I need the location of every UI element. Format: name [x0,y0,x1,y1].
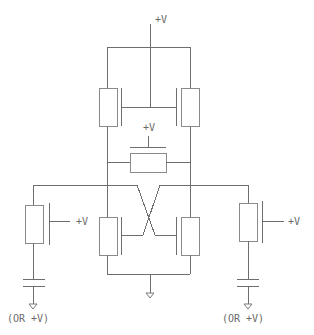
right-ground [244,304,252,309]
left-capacitor: (OR +V) [7,279,49,324]
center-resistor: +V [107,122,190,172]
right-access-transistor: +V [239,185,300,279]
top-right-load-transistor [176,88,199,126]
right-capacitor: (OR +V) [222,279,264,324]
top-left-load-transistor [99,88,176,126]
left-cross-transistor [99,217,121,274]
left-ground [29,304,37,309]
circuit-diagram: +V +V [0,0,314,335]
supply-label-load: +V [143,122,155,133]
top-supply: +V [107,14,190,107]
left-access-transistor: +V [25,185,88,279]
supply-label-right-access: +V [288,216,300,227]
supply-label-top: +V [155,14,167,25]
supply-label-left-access: +V [76,216,88,227]
right-cross-transistor [176,217,199,274]
cross-coupling [33,185,248,235]
right-cap-note: (OR +V) [222,313,264,324]
left-cap-note: (OR +V) [7,313,49,324]
center-ground [107,274,190,298]
